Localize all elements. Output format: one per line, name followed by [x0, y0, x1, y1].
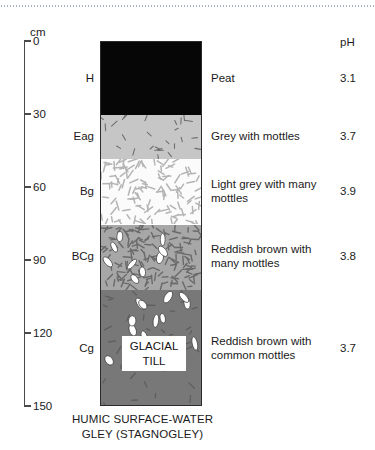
horizon-ph-value: 3.7 [340, 130, 356, 142]
depth-tick-label: 0 [33, 35, 39, 47]
ph-column-header: pH [340, 36, 355, 48]
depth-tick-label: 120 [33, 327, 52, 339]
depth-tick-label: 30 [33, 108, 46, 120]
glacial-till-callout: GLACIAL TILL [122, 336, 186, 371]
horizon-code-label: Eag [34, 130, 94, 142]
soil-horizon-layer [101, 42, 201, 115]
soil-profile-figure: cm 0306090120150 HEagBgBCgCg GLACIAL TIL… [0, 0, 375, 450]
depth-tick-mark [24, 40, 31, 41]
soil-horizon-layer [101, 115, 201, 159]
soil-horizon-layer [101, 225, 201, 291]
horizon-code-label: BCg [34, 250, 94, 262]
horizon-description: Peat [211, 71, 336, 85]
horizon-ph-value: 3.9 [340, 185, 356, 197]
depth-tick-mark [24, 405, 31, 406]
horizon-ph-value: 3.7 [340, 342, 356, 354]
horizon-code-label: H [34, 72, 94, 84]
glacial-till-line-2: TILL [142, 354, 165, 369]
horizon-code-label: Bg [34, 185, 94, 197]
horizon-description: Reddish brown with many mottles [211, 242, 336, 270]
horizon-ph-value: 3.1 [340, 72, 356, 84]
horizon-description: Reddish brown with common mottles [211, 334, 336, 362]
horizon-description: Grey with mottles [211, 129, 336, 143]
depth-tick-mark [24, 259, 31, 260]
caption-line-2: GLEY (STAGNOGLEY) [0, 427, 285, 442]
depth-tick-mark [24, 113, 31, 114]
top-divider-rule [0, 5, 375, 7]
depth-tick-mark [24, 186, 31, 187]
soil-horizon-layer [101, 159, 201, 225]
depth-tick-mark [24, 332, 31, 333]
caption-line-1: HUMIC SURFACE-WATER [0, 412, 285, 427]
horizon-code-label: Cg [34, 342, 94, 354]
depth-tick-label: 150 [33, 400, 52, 412]
horizon-description: Light grey with many mottles [211, 177, 336, 205]
horizon-ph-value: 3.8 [340, 250, 356, 262]
depth-axis-line [24, 41, 25, 406]
glacial-till-line-1: GLACIAL [130, 339, 179, 354]
figure-caption: HUMIC SURFACE-WATER GLEY (STAGNOGLEY) [0, 412, 285, 442]
